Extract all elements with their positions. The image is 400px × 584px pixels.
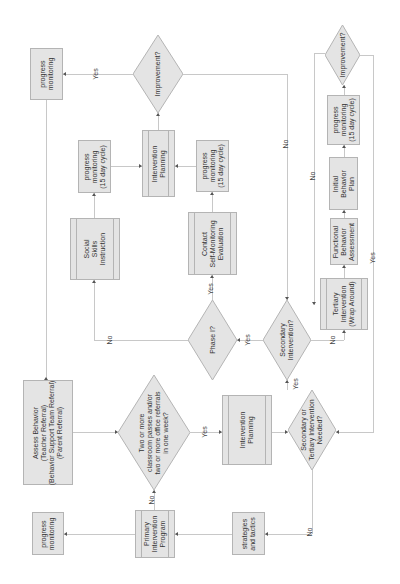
edge-label-two-yes: Yes [201, 426, 209, 437]
decision-improvement-right: Improvement? [325, 25, 360, 85]
arrow-head [156, 113, 160, 116]
node-label: Functional Behavior Assessment [332, 222, 356, 260]
connector-phase1-no [94, 280, 95, 340]
node-label: Secondary Intervention? [279, 320, 295, 360]
node-label: progress monitoring (15 day cycle) [201, 144, 225, 188]
node-label: progress monitoring (15 day cycle) [83, 145, 107, 189]
node-progress-monitoring-15-left: progress monitoring (15 day cycle) [78, 140, 111, 193]
connector-improvement-right-no [314, 53, 325, 54]
connector-contact-to-pm15-mid [212, 192, 213, 212]
node-progress-monitoring-15-mid: progress monitoring (15 day cycle) [196, 140, 229, 192]
node-label: Primary Intervention Program [143, 516, 167, 553]
edge-label-improvement-top-no: No [282, 140, 290, 149]
arrow-head [92, 193, 96, 196]
arrow-head [92, 280, 96, 283]
edge-label-phase1-no: No [106, 336, 114, 345]
arrow-head [237, 338, 240, 342]
connector-secondary-no [311, 340, 344, 341]
node-label: progress monitoring [39, 58, 55, 91]
arrow-head [210, 192, 214, 195]
node-label: Two or more classroom passes and/or two … [138, 391, 170, 474]
node-intervention-planning-lower: Intervention Planning [222, 395, 272, 465]
node-label: Social Skills Instruction [83, 233, 107, 265]
decision-secondary-intervention: Secondary Intervention? [263, 300, 311, 380]
decision-secondary-or-tertiary: Secondary or Tertiary Intervention Neede… [288, 390, 336, 470]
connector-improvement-right-yes [360, 55, 373, 56]
connector-sectert-no [312, 470, 313, 534]
arrow-head [285, 380, 289, 383]
connector-pm-top-to-assess [46, 100, 47, 380]
connector-assess-to-two [73, 432, 118, 433]
connector-pm15-left-to-planning [111, 166, 142, 167]
node-label: strategies and tactics [241, 517, 257, 550]
node-label: Intervention Planning [151, 145, 167, 182]
node-label: Tertiary Intervention (Wrap Around) [332, 281, 356, 326]
arrow-head [342, 145, 346, 148]
node-label: Contact Self-Monitoring Evaluation [201, 220, 225, 267]
node-contact-self-monitoring: Contact Self-Monitoring Evaluation [188, 212, 237, 275]
decision-phase-1: Phase I? [188, 300, 237, 380]
connector-primary-to-pm [64, 534, 135, 535]
node-progress-monitoring-top: progress monitoring [30, 48, 63, 100]
arrow-head [265, 532, 268, 536]
arrow-head [342, 210, 346, 213]
node-label: Improvement? [339, 33, 347, 78]
node-tertiary-intervention: Tertiary Intervention (Wrap Around) [320, 278, 368, 330]
node-progress-monitoring-15-right: progress monitoring (15 day cycle) [327, 95, 360, 145]
arrow-head [175, 532, 178, 536]
node-label: Assess Behavior (Teacher Referral) (Beha… [32, 380, 64, 485]
edge-label-improvement-top-yes: Yes [92, 68, 100, 79]
node-assess-behavior: Assess Behavior (Teacher Referral) (Beha… [23, 380, 73, 485]
arrow-head [336, 430, 339, 434]
node-intervention-planning-upper: Intervention Planning [142, 130, 175, 197]
connector-improvement-right-yes-h [336, 432, 373, 433]
node-label: Phase I? [209, 326, 217, 354]
decision-improvement-top: Improvement? [133, 35, 183, 113]
edge-label-two-no: No [148, 496, 156, 505]
node-initial-behavior-plan: Initial Behavior Plan [329, 157, 358, 210]
arrow-head [342, 330, 346, 333]
node-social-skills-instruction: Social Skills Instruction [70, 218, 120, 280]
connector-social-to-pm15-left [94, 193, 95, 218]
node-label: Improvement? [154, 52, 162, 97]
arrow-head [63, 72, 66, 76]
edge-label-secondary-yes: Yes [244, 334, 252, 345]
connector-pm15-mid-to-planning [175, 166, 196, 167]
node-progress-monitoring-bottom: progress monitoring [32, 512, 64, 555]
arrow-head [175, 164, 178, 168]
edge-label-sectert-yes: Yes [292, 378, 300, 389]
arrow-head [342, 85, 346, 88]
connector-improvement-top-no [183, 74, 287, 75]
arrow-head [152, 490, 156, 493]
connector-sectert-no-h [265, 534, 312, 535]
arrow-head [342, 265, 346, 268]
node-primary-intervention-program: Primary Intervention Program [135, 510, 175, 558]
edge-label-sectert-no: No [306, 528, 314, 537]
node-functional-behavior-assessment: Functional Behavior Assessment [330, 218, 358, 265]
edge-label-secondary-no: No [329, 336, 337, 345]
arrow-head [64, 532, 67, 536]
edge-label-improvement-right-yes: Yes [369, 252, 377, 263]
decision-two-or-more-referrals: Two or more classroom passes and/or two … [118, 375, 190, 490]
edge-label-improvement-right-no: No [309, 172, 317, 181]
arrow-head [312, 302, 316, 305]
node-label: Secondary or Tertiary Intervention Neede… [300, 399, 324, 460]
node-label: Intervention Planning [239, 412, 255, 449]
arrow-head [210, 275, 214, 278]
node-strategies-and-tactics: strategies and tactics [232, 512, 265, 555]
node-label: progress monitoring (15 day cycle) [332, 98, 356, 142]
node-label: progress monitoring [40, 517, 56, 550]
node-label: Initial Behavior Plan [332, 170, 356, 198]
connector-strategies-to-primary [175, 534, 232, 535]
edge-label-phase1-yes: Yes [207, 283, 215, 294]
connector-improvement-right-yes-v [373, 55, 374, 433]
connector-improvement-top-no-down [287, 74, 288, 300]
